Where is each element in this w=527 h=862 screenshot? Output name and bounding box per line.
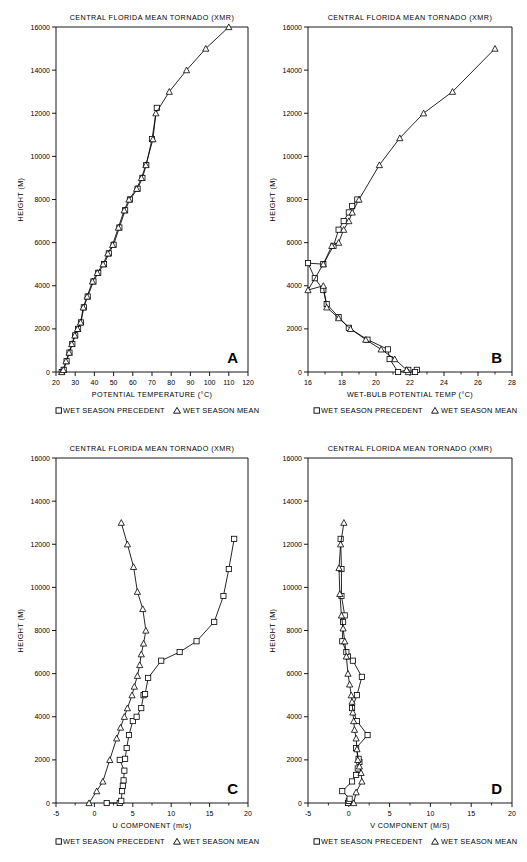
- marker-square: [159, 658, 164, 663]
- marker-square: [177, 649, 182, 654]
- marker-square: [365, 732, 370, 737]
- figure-root: CENTRAL FLORIDA MEAN TORNADO (XMR)020004…: [0, 0, 527, 862]
- y-tick-label: 12000: [283, 541, 303, 548]
- marker-square: [142, 692, 147, 697]
- x-tick-label: 20: [372, 379, 380, 386]
- marker-triangle: [492, 45, 498, 51]
- marker-square: [349, 779, 354, 784]
- marker-square: [126, 732, 131, 737]
- marker-triangle: [134, 589, 140, 595]
- x-tick-label: 30: [71, 379, 79, 386]
- legend-triangle-icon: [174, 407, 181, 413]
- x-tick-label: -5: [305, 810, 311, 817]
- marker-square: [350, 658, 355, 663]
- marker-triangle: [118, 520, 124, 526]
- y-tick-label: 10000: [283, 153, 303, 160]
- marker-triangle: [340, 625, 346, 631]
- x-axis-label: POTENTIAL TEMPERATURE (°C): [92, 390, 213, 399]
- marker-square: [359, 674, 364, 679]
- x-tick-label: 5: [388, 810, 392, 817]
- marker-triangle: [347, 681, 353, 687]
- legend-square-icon: [314, 839, 319, 844]
- y-tick-label: 10000: [283, 584, 303, 591]
- marker-triangle: [338, 541, 344, 547]
- y-tick-label: 2000: [286, 756, 302, 763]
- marker-square: [104, 800, 109, 805]
- x-tick-label: 110: [223, 379, 234, 386]
- x-tick-label: 15: [206, 810, 214, 817]
- marker-triangle: [140, 606, 146, 612]
- marker-square: [385, 347, 390, 352]
- y-tick-label: 0: [46, 800, 50, 807]
- marker-square: [396, 369, 401, 374]
- chart-panel-c: CENTRAL FLORIDA MEAN TORNADO (XMR)020004…: [0, 431, 263, 862]
- y-tick-label: 16000: [283, 24, 303, 31]
- y-tick-label: 16000: [283, 455, 303, 462]
- x-tick-label: 80: [167, 379, 175, 386]
- marker-triangle: [353, 789, 359, 795]
- y-tick-label: 16000: [31, 455, 51, 462]
- x-tick-label: 15: [467, 810, 475, 817]
- marker-triangle: [153, 110, 159, 116]
- x-tick-label: 28: [508, 379, 516, 386]
- y-tick-label: 16000: [31, 24, 51, 31]
- marker-triangle: [134, 673, 140, 679]
- marker-triangle: [140, 640, 146, 646]
- x-tick-label: 10: [167, 810, 175, 817]
- y-tick-label: 6000: [34, 239, 50, 246]
- x-tick-label: 20: [244, 810, 252, 817]
- y-tick-label: 8000: [286, 196, 302, 203]
- x-tick-label: 26: [474, 379, 482, 386]
- marker-triangle: [130, 564, 136, 570]
- y-tick-label: 0: [298, 369, 302, 376]
- x-tick-label: 20: [52, 379, 60, 386]
- marker-square: [124, 745, 129, 750]
- x-tick-label: 5: [131, 810, 135, 817]
- legend-mean-label: WET SEASON MEAN: [441, 837, 517, 846]
- marker-square: [341, 218, 346, 223]
- marker-square: [146, 675, 151, 680]
- y-tick-label: 4000: [34, 282, 50, 289]
- marker-square: [139, 706, 144, 711]
- chart-title: CENTRAL FLORIDA MEAN TORNADO (XMR): [70, 13, 235, 22]
- marker-square: [347, 796, 352, 801]
- marker-triangle: [107, 757, 113, 763]
- y-tick-label: 10000: [31, 584, 51, 591]
- x-tick-label: -5: [53, 810, 59, 817]
- y-axis-label: HEIGHT (M): [268, 609, 277, 653]
- plot-frame: [56, 458, 248, 803]
- marker-triangle: [345, 671, 351, 677]
- marker-square: [134, 714, 139, 719]
- panel-letter: D: [491, 780, 502, 797]
- chart-legend: WET SEASON PRECEDENTWET SEASON MEAN: [314, 837, 517, 846]
- marker-square: [340, 619, 345, 624]
- x-tick-label: 60: [129, 379, 137, 386]
- marker-triangle: [131, 683, 137, 689]
- marker-square: [350, 203, 355, 208]
- marker-square: [232, 536, 237, 541]
- marker-triangle: [359, 778, 365, 784]
- panel-letter: A: [227, 349, 238, 366]
- y-axis-label: HEIGHT (M): [268, 178, 277, 222]
- marker-square: [194, 639, 199, 644]
- y-tick-label: 12000: [31, 541, 51, 548]
- marker-square: [413, 369, 418, 374]
- y-tick-label: 4000: [286, 282, 302, 289]
- marker-square: [221, 593, 226, 598]
- marker-triangle: [137, 662, 143, 668]
- y-tick-label: 6000: [34, 670, 50, 677]
- plot-frame: [56, 27, 248, 372]
- y-tick-label: 0: [46, 369, 50, 376]
- x-tick-label: 50: [110, 379, 118, 386]
- y-axis-label: HEIGHT (M): [16, 178, 25, 222]
- series-line-mean: [62, 27, 229, 372]
- legend-precedent-label: WET SEASON PRECEDENT: [321, 406, 423, 415]
- marker-square: [154, 105, 159, 110]
- legend-mean-label: WET SEASON MEAN: [183, 837, 259, 846]
- marker-square: [123, 756, 128, 761]
- marker-square: [212, 619, 217, 624]
- y-axis-label: HEIGHT (M): [16, 609, 25, 653]
- x-tick-label: 22: [406, 379, 414, 386]
- x-tick-label: 0: [92, 810, 96, 817]
- series-line-mean: [308, 49, 495, 372]
